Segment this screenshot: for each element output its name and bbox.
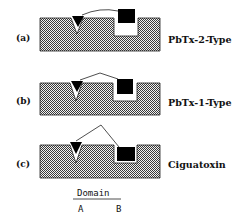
ligand-linker-angled [80,73,118,80]
domain-b-label: B [116,204,121,214]
panel-a: (a) PbTx-2-Type [16,9,232,51]
ligand-linker-curve [82,10,118,15]
panel-label: (a) [16,33,30,43]
domain-b-square [117,79,133,94]
domain-a-label: A [78,204,84,214]
domain-legend: Domain A B [73,188,121,214]
toxin-type-label: Ciguatoxin [168,159,226,170]
panel-label: (b) [16,96,31,106]
receptor-site [40,83,160,115]
receptor-site [40,145,160,178]
toxin-type-label: PbTx-1-Type [168,97,232,108]
toxin-type-label: PbTx-2-Type [168,34,232,45]
domain-legend-title: Domain [77,188,110,198]
panel-label: (c) [16,159,30,169]
panel-c: (c) Ciguatoxin [16,125,226,178]
domain-b-square [118,9,135,23]
ligand-linker-angled [76,125,119,147]
panel-b: (b) PbTx-1-Type [16,73,232,115]
domain-b-square [117,147,135,161]
receptor-site [40,18,160,51]
binding-model-diagram: (a) PbTx-2-Type (b) PbTx-1-Type (c) Cigu… [0,0,239,220]
